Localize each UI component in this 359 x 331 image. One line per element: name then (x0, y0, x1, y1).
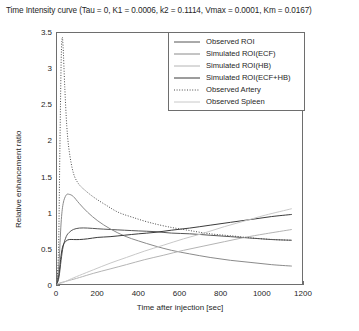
y-tick-label: 3 (26, 64, 52, 73)
series-line-5 (57, 209, 292, 284)
legend-swatch-1 (173, 49, 201, 59)
legend-label: Observed ROI (206, 37, 255, 47)
y-axis-label: Relative enhancement ratio (14, 131, 23, 228)
y-tick-label: 2.5 (26, 100, 52, 109)
legend-item: Observed Artery (173, 84, 300, 96)
y-tick-label: 0.5 (26, 244, 52, 253)
y-tick-label: 1.5 (26, 172, 52, 181)
series-line-0 (57, 228, 292, 284)
legend-item: Simulated ROI(ECF) (173, 48, 300, 60)
legend-swatch-0 (173, 37, 201, 47)
x-tick-label: 1200 (283, 289, 323, 298)
x-tick-mark (303, 281, 304, 285)
legend-item: Simulated ROI(HB) (173, 60, 300, 72)
x-tick-label: 400 (118, 289, 158, 298)
y-tick-label: 2 (26, 136, 52, 145)
legend-label: Simulated ROI(HB) (206, 61, 271, 71)
y-tick-mark (56, 285, 60, 286)
legend-item: Simulated ROI(ECF+HB) (173, 72, 300, 84)
y-tick-label: 3.5 (26, 28, 52, 37)
legend-label: Observed Artery (206, 85, 261, 95)
legend-item: Observed Spleen (173, 96, 300, 108)
legend-swatch-3 (173, 73, 201, 83)
legend-label: Observed Spleen (206, 97, 265, 107)
x-tick-label: 200 (77, 289, 117, 298)
legend-swatch-4 (173, 85, 201, 95)
legend: Observed ROISimulated ROI(ECF)Simulated … (168, 32, 305, 111)
legend-swatch-5 (173, 97, 201, 107)
legend-label: Simulated ROI(ECF+HB) (206, 73, 291, 83)
x-tick-label: 600 (160, 289, 200, 298)
legend-swatch-2 (173, 61, 201, 71)
legend-label: Simulated ROI(ECF) (206, 49, 276, 59)
x-tick-label: 0 (36, 289, 76, 298)
x-tick-label: 800 (201, 289, 241, 298)
chart-title: Time Intensity curve (Tau = 0, K1 = 0.00… (6, 6, 356, 15)
x-axis-label: Time after injection [sec] (137, 303, 223, 312)
x-tick-label: 1000 (242, 289, 282, 298)
legend-item: Observed ROI (173, 36, 300, 48)
y-tick-label: 1 (26, 208, 52, 217)
figure: Time Intensity curve (Tau = 0, K1 = 0.00… (0, 0, 359, 331)
